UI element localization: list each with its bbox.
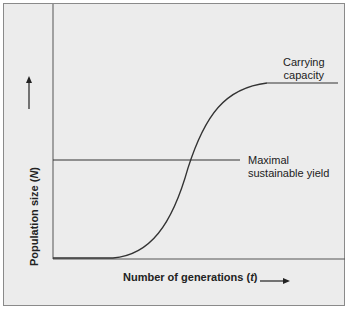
capacity-label: Carrying capacity — [283, 56, 325, 82]
x-axis-label: Number of generations (t) — [123, 271, 257, 283]
y-arrowhead-icon — [26, 76, 32, 83]
logistic-curve — [53, 83, 267, 258]
msy-label: Maximal sustainable yield — [248, 154, 329, 180]
x-arrowhead-icon — [283, 278, 290, 284]
y-axis-label: Population size (N) — [28, 86, 40, 266]
